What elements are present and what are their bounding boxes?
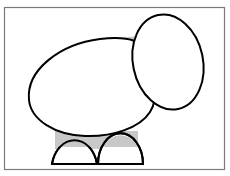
diagram-canvas [0, 0, 230, 176]
creature-diagram [0, 0, 230, 176]
